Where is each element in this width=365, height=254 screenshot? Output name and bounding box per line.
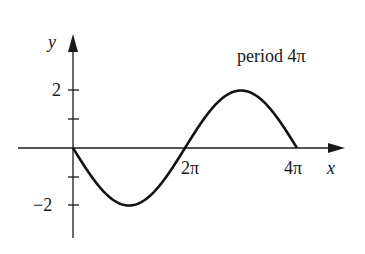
x-axis-label: x — [327, 159, 335, 177]
y-tick-label-2: 2 — [52, 81, 61, 99]
x-axis-arrow-icon — [328, 143, 345, 153]
y-axis-label: y — [48, 33, 56, 51]
y-axis-arrow-icon — [68, 34, 78, 52]
x-tick-label-2pi: 2π — [181, 159, 199, 177]
x-tick-label-4pi: 4π — [284, 159, 302, 177]
y-tick-label-neg2: −2 — [33, 196, 52, 214]
period-annotation: period 4π — [237, 47, 306, 65]
